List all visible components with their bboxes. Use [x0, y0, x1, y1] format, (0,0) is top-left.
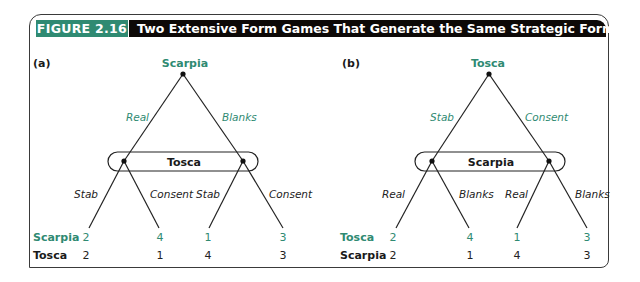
panel-b-root-node — [486, 71, 491, 76]
panel-b-action-stab: Stab — [430, 111, 454, 123]
payoff: 4 — [467, 231, 474, 244]
panel-b-info-set-player: Scarpia — [468, 156, 514, 169]
panel-b-payoff-row1-player: Tosca — [340, 231, 374, 244]
panel-a-action-2: Consent — [150, 188, 194, 200]
payoff: 3 — [280, 249, 287, 262]
panel-b-action-4: Blanks — [575, 188, 610, 200]
panel-a-action-4: Consent — [269, 188, 313, 200]
payoff: 1 — [467, 249, 474, 262]
panel-a-payoff-row2-player: Tosca — [33, 249, 67, 262]
panel-b-action-2: Blanks — [459, 188, 494, 200]
payoff: 2 — [390, 231, 397, 244]
payoff: 3 — [584, 249, 591, 262]
payoff: 4 — [157, 231, 164, 244]
game-trees: (a) Scarpia Real Blanks Tosca Stab Conse… — [0, 0, 640, 282]
panel-b-root-player: Tosca — [471, 57, 505, 70]
payoff: 1 — [205, 231, 212, 244]
payoff: 3 — [584, 231, 591, 244]
panel-a-payoff-row1-player: Scarpia — [33, 231, 79, 244]
panel-a-root-node — [180, 71, 185, 76]
panel-b-payoff-row2-player: Scarpia — [340, 249, 386, 262]
panel-a-root-player: Scarpia — [162, 57, 208, 70]
payoff: 3 — [280, 231, 287, 244]
payoff: 4 — [514, 249, 521, 262]
payoff: 2 — [83, 231, 90, 244]
panel-a-action-1: Stab — [74, 188, 98, 200]
panel-b: (b) Tosca Stab Consent Scarpia Real Blan… — [340, 57, 610, 262]
panel-a-node-left — [121, 158, 126, 163]
payoff: 1 — [514, 231, 521, 244]
panel-a: (a) Scarpia Real Blanks Tosca Stab Conse… — [33, 57, 313, 262]
panel-b-action-consent: Consent — [525, 111, 569, 123]
panel-b-node-right — [546, 158, 551, 163]
payoff: 1 — [157, 249, 164, 262]
panel-a-action-3: Stab — [196, 188, 220, 200]
panel-a-action-real: Real — [126, 111, 149, 123]
payoff: 2 — [390, 249, 397, 262]
payoff: 2 — [83, 249, 90, 262]
panel-a-node-right — [240, 158, 245, 163]
panel-b-action-3: Real — [505, 188, 528, 200]
panel-b-action-1: Real — [382, 188, 405, 200]
panel-a-info-set-player: Tosca — [167, 156, 201, 169]
panel-a-label: (a) — [33, 57, 50, 70]
panel-b-node-left — [429, 158, 434, 163]
panel-b-label: (b) — [342, 57, 360, 70]
panel-a-action-blanks: Blanks — [222, 111, 257, 123]
payoff: 4 — [205, 249, 212, 262]
